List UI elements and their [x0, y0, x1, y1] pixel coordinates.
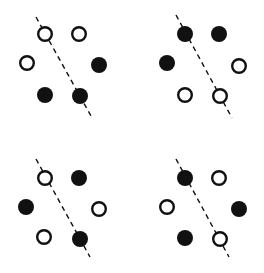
panel-top-left	[20, 17, 107, 116]
hollow-dot	[212, 171, 226, 185]
hollow-dot	[213, 89, 227, 103]
filled-dot	[72, 231, 88, 247]
filled-dot	[72, 88, 88, 104]
panel-bottom-right	[160, 159, 247, 257]
hollow-dot	[178, 88, 192, 102]
hollow-dot	[92, 202, 106, 216]
hollow-dot	[213, 232, 227, 246]
hollow-dot	[160, 200, 174, 214]
filled-dot	[18, 199, 34, 215]
filled-dot	[37, 87, 53, 103]
hollow-dot	[72, 27, 86, 41]
filled-dot	[211, 26, 227, 42]
filled-dot	[177, 26, 193, 42]
panel-top-right	[159, 15, 246, 118]
hollow-dot	[38, 27, 52, 41]
filled-dot	[177, 170, 193, 186]
filled-dot	[231, 201, 247, 217]
panel-bottom-left	[18, 159, 106, 257]
dot-pattern-diagram	[0, 0, 264, 273]
hollow-dot	[20, 56, 34, 70]
filled-dot	[159, 55, 175, 71]
hollow-dot	[37, 230, 51, 244]
filled-dot	[71, 170, 87, 186]
hollow-dot	[38, 171, 52, 185]
diagram-svg	[0, 0, 264, 273]
hollow-dot	[232, 59, 246, 73]
filled-dot	[91, 57, 107, 73]
filled-dot	[177, 230, 193, 246]
